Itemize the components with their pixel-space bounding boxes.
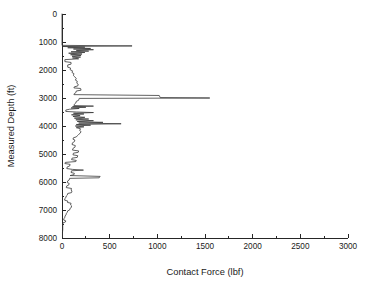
y-tick-label: 0 bbox=[52, 10, 57, 19]
x-tick-label: 1500 bbox=[196, 242, 215, 251]
x-tick-label: 2500 bbox=[291, 242, 310, 251]
contact-force-depth-plot: 0500100015002000250030000100020003000400… bbox=[0, 0, 369, 286]
chart-figure: 0500100015002000250030000100020003000400… bbox=[0, 0, 369, 286]
x-axis-label: Contact Force (lbf) bbox=[167, 267, 244, 277]
y-tick-label: 5000 bbox=[39, 150, 58, 159]
y-tick-label: 4000 bbox=[39, 122, 58, 131]
y-tick-label: 2000 bbox=[39, 66, 58, 75]
x-tick-label: 3000 bbox=[339, 242, 358, 251]
y-tick-label: 3000 bbox=[39, 94, 58, 103]
x-tick-label: 2000 bbox=[244, 242, 263, 251]
y-tick-label: 7000 bbox=[39, 206, 58, 215]
y-tick-label: 1000 bbox=[39, 38, 58, 47]
x-tick-label: 1000 bbox=[148, 242, 167, 251]
y-axis-label: Measured Depth (ft) bbox=[6, 85, 16, 168]
x-tick-label: 500 bbox=[103, 242, 117, 251]
x-tick-label: 0 bbox=[60, 242, 65, 251]
y-tick-label: 6000 bbox=[39, 178, 58, 187]
y-tick-label: 8000 bbox=[39, 234, 58, 243]
